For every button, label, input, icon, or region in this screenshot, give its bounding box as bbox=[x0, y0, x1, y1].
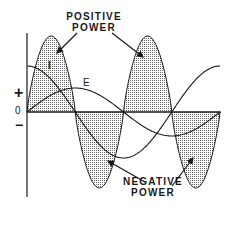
positive-power-label-line2: POWER bbox=[60, 22, 128, 33]
negative-power-label: NEGATIVE POWER bbox=[120, 176, 186, 198]
voltage-label-e: E bbox=[83, 77, 90, 88]
negative-power-label-line1: NEGATIVE bbox=[120, 176, 186, 187]
positive-power-label: POSITIVE POWER bbox=[60, 11, 128, 33]
minus-sign: − bbox=[15, 117, 23, 133]
positive-power-arrow-left bbox=[57, 33, 77, 53]
positive-power-label-line1: POSITIVE bbox=[60, 11, 128, 22]
positive-power-arrow-right bbox=[112, 33, 143, 57]
waveform-svg bbox=[0, 0, 231, 227]
current-label-i: I bbox=[48, 60, 51, 71]
zero-label: 0 bbox=[15, 105, 21, 116]
power-waveform-diagram: POSITIVE POWER NEGATIVE POWER I E + 0 − bbox=[0, 0, 231, 227]
plus-sign: + bbox=[14, 84, 23, 102]
negative-power-label-line2: POWER bbox=[120, 187, 186, 198]
